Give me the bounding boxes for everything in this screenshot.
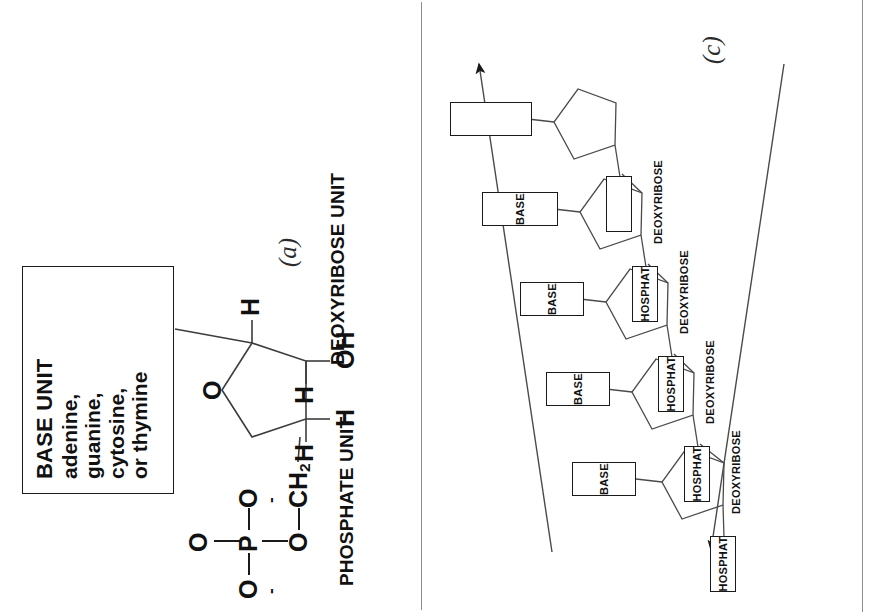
atom-hydroxyl: OH bbox=[333, 332, 358, 370]
atom-hydrogen-1: H bbox=[238, 298, 263, 316]
link-p4-sugar4 bbox=[641, 235, 646, 267]
atom-ring-oxygen: O bbox=[200, 381, 225, 400]
link-p2-sugar2 bbox=[693, 415, 698, 447]
base-box-2: BASE bbox=[546, 372, 610, 406]
base-box-3: BASE bbox=[520, 282, 584, 316]
phosphate-box-3: PHOSPHATE bbox=[658, 356, 684, 412]
panel-a-canvas: BASE UNIT adenine, guanine, cytosine, or… bbox=[0, 0, 420, 612]
panel-a-letter: (a) bbox=[274, 238, 302, 267]
atom-hydrogen-4: H bbox=[333, 409, 358, 427]
base-box-1: BASE bbox=[572, 462, 636, 496]
phosphate-box-4: PHOSPHATE bbox=[632, 266, 658, 322]
direction-arrow-1 bbox=[711, 64, 784, 550]
panel-c-letter: (c) bbox=[698, 36, 726, 64]
link-p3-sugar3 bbox=[667, 325, 672, 357]
sugar-ring-5 bbox=[554, 89, 616, 159]
base-box-4: BASE bbox=[482, 192, 558, 226]
deoxyribose-label-2: DEOXYRIBOSE bbox=[704, 340, 716, 424]
phosphate-box-2: PHOSPHATE bbox=[684, 446, 710, 502]
deoxyribose-label-3: DEOXYRIBOSE bbox=[678, 250, 690, 334]
panel-c: PHOSPHATE PHOSPHATE PHOSPHATE PHOSPHATE … bbox=[424, 0, 877, 612]
atom-hydrogen-2: H bbox=[292, 444, 317, 462]
phosphate-box-5 bbox=[606, 176, 632, 232]
phosphate-box-1: PHOSPHATE bbox=[710, 536, 736, 592]
panel-a: BASE UNIT adenine, guanine, cytosine, or… bbox=[0, 0, 420, 612]
panel-divider bbox=[421, 2, 422, 610]
panel-c-canvas: PHOSPHATE PHOSPHATE PHOSPHATE PHOSPHATE … bbox=[424, 0, 873, 612]
deoxyribose-label-1: DEOXYRIBOSE bbox=[730, 430, 742, 514]
link-p1-sugar1 bbox=[723, 505, 724, 537]
atom-hydrogen-3: H bbox=[292, 386, 317, 404]
link-sugar1-base1 bbox=[636, 479, 662, 482]
bond-ring-base bbox=[175, 329, 252, 343]
deoxyribose-ring bbox=[0, 0, 420, 612]
figure-page: BASE UNIT adenine, guanine, cytosine, or… bbox=[0, 0, 877, 612]
link-p5-sugar5 bbox=[615, 145, 620, 177]
deoxyribose-label-4: DEOXYRIBOSE bbox=[652, 160, 664, 244]
base-box-5 bbox=[450, 102, 532, 136]
